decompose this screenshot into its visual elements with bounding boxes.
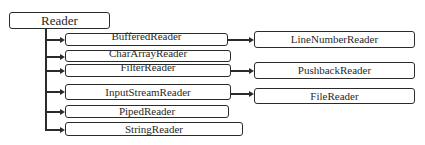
connector-branch [231,93,249,95]
connector-branch [45,111,60,113]
connector-branch [45,91,60,93]
node-label: CharArrayReader [109,48,187,59]
node-label: InputStreamReader [105,87,191,98]
node-label: Reader [41,14,78,27]
node-stringreader: StringReader [65,122,243,136]
node-bufferedreader: BufferedReader [65,33,228,46]
connector-trunk [45,29,47,130]
node-inputstreamreader: InputStreamReader [65,84,231,100]
connector-branch [231,70,249,72]
node-label: StringReader [125,124,183,135]
node-filereader: FileReader [254,88,415,104]
connector-branch [45,56,60,58]
node-label: FilterReader [121,62,176,73]
node-pipedreader: PipedReader [65,105,229,118]
node-linenumberreader: LineNumberReader [254,31,415,48]
node-pushbackreader: PushbackReader [254,62,415,79]
node-reader: Reader [9,12,110,29]
node-label: PushbackReader [298,65,371,76]
connector-branch [45,129,60,131]
connector-branch [228,39,249,41]
connector-branch [45,39,60,41]
node-label: BufferedReader [111,31,181,42]
node-label: PipedReader [119,106,175,117]
node-filterreader: FilterReader [65,64,231,77]
node-label: FileReader [310,91,358,102]
connector-branch [45,70,60,72]
node-label: LineNumberReader [291,34,378,45]
